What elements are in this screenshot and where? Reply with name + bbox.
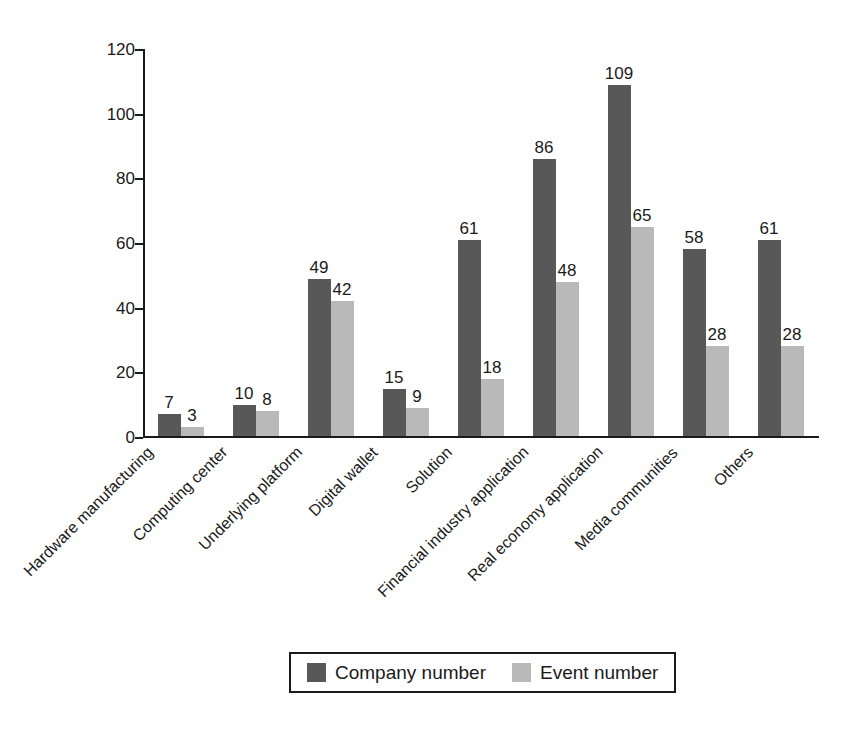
x-axis-category-label: Digital wallet (306, 444, 381, 519)
bar-value-label: 7 (164, 394, 173, 411)
y-axis-tick-mark (135, 178, 143, 180)
bar-company-number: 61 (458, 240, 481, 437)
bar-company-number: 49 (308, 279, 331, 437)
bar-value-label: 86 (535, 139, 554, 156)
legend-item[interactable]: Company number (307, 663, 486, 682)
y-axis-tick-mark (135, 243, 143, 245)
bar-value-label: 48 (558, 262, 577, 279)
bar-value-label: 28 (783, 326, 802, 343)
y-axis-tick-label: 100 (107, 105, 135, 122)
bar-event-number: 18 (481, 379, 504, 437)
bar-company-number: 7 (158, 414, 181, 437)
legend-label: Company number (335, 663, 486, 682)
legend-item[interactable]: Event number (512, 663, 658, 682)
bar-value-label: 9 (412, 388, 421, 405)
bar-value-label: 65 (633, 207, 652, 224)
y-axis-tick-mark (135, 49, 143, 51)
x-axis-line (143, 436, 819, 438)
bar-event-number: 8 (256, 411, 279, 437)
bar-value-label: 8 (262, 391, 271, 408)
bar-event-number: 28 (706, 346, 729, 437)
bar-value-label: 10 (235, 385, 254, 402)
legend-swatch-icon (307, 663, 326, 682)
bar-value-label: 42 (333, 281, 352, 298)
y-axis-tick-label: 60 (116, 235, 135, 252)
chart-legend: Company numberEvent number (289, 652, 676, 693)
y-axis-tick-mark (135, 308, 143, 310)
bar-company-number: 109 (608, 85, 631, 437)
bars-layer: 731084942159611886481096558286128 (143, 49, 818, 437)
bar-value-label: 58 (685, 229, 704, 246)
x-axis-category-label: Real economy application (465, 444, 606, 585)
bar-value-label: 18 (483, 359, 502, 376)
bar-value-label: 109 (605, 65, 633, 82)
x-axis-category-label: Hardware manufacturing (21, 444, 156, 579)
x-axis-category-label: Financial industry application (375, 444, 532, 601)
x-axis-category-labels: Hardware manufacturingComputing centerUn… (143, 444, 819, 654)
bar-event-number: 48 (556, 282, 579, 437)
bar-value-label: 49 (310, 259, 329, 276)
bar-company-number: 15 (383, 389, 406, 438)
bar-event-number: 28 (781, 346, 804, 437)
bar-value-label: 15 (385, 369, 404, 386)
y-axis-tick-label: 20 (116, 364, 135, 381)
legend-swatch-icon (512, 663, 531, 682)
bar-company-number: 61 (758, 240, 781, 437)
bar-value-label: 61 (460, 220, 479, 237)
bar-event-number: 42 (331, 301, 354, 437)
y-axis-tick-mark (135, 437, 143, 439)
y-axis-tick-mark (135, 372, 143, 374)
legend-label: Event number (540, 663, 658, 682)
y-axis-tick-label: 0 (126, 429, 135, 446)
bar-company-number: 86 (533, 159, 556, 437)
bar-company-number: 10 (233, 405, 256, 437)
y-axis-tick-mark (135, 114, 143, 116)
bar-value-label: 28 (708, 326, 727, 343)
y-axis-tick-label: 120 (107, 41, 135, 58)
y-axis-tick-label: 80 (116, 170, 135, 187)
bar-event-number: 9 (406, 408, 429, 437)
x-axis-category-label: Solution (403, 444, 455, 496)
bar-company-number: 58 (683, 249, 706, 437)
bar-value-label: 3 (187, 407, 196, 424)
x-axis-category-label: Others (711, 444, 756, 489)
bar-event-number: 65 (631, 227, 654, 437)
bar-chart: 020406080100120 731084942159611886481096… (0, 0, 843, 735)
bar-value-label: 61 (760, 220, 779, 237)
y-axis-tick-label: 40 (116, 299, 135, 316)
